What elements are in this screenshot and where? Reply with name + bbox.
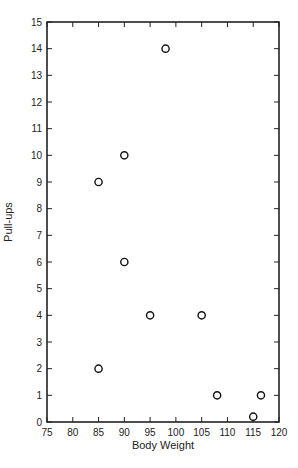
x-tick-label: 120 [271, 427, 288, 438]
y-tick-label: 0 [36, 417, 42, 428]
y-tick-label: 14 [31, 43, 43, 54]
y-tick-label: 2 [36, 363, 42, 374]
data-point [250, 413, 257, 420]
y-axis-label: Pull-ups [2, 202, 14, 242]
data-point [95, 178, 102, 185]
x-axis-label: Body Weight [132, 439, 194, 451]
y-tick-label: 6 [36, 257, 42, 268]
data-point [162, 45, 169, 52]
y-tick-label: 15 [31, 17, 43, 28]
scatter-chart: 7580859095100105110115120 01234567891011… [0, 0, 298, 468]
x-tick-label: 115 [245, 427, 261, 438]
x-tick-label: 100 [168, 427, 185, 438]
y-tick-label: 3 [36, 337, 42, 348]
x-tick-label: 95 [145, 427, 157, 438]
data-point [257, 392, 264, 399]
y-tick-label: 9 [36, 177, 42, 188]
x-axis-ticks: 7580859095100105110115120 [41, 22, 287, 438]
data-point [214, 392, 221, 399]
y-tick-label: 8 [36, 203, 42, 214]
y-tick-label: 10 [31, 150, 43, 161]
y-tick-label: 1 [36, 390, 42, 401]
x-tick-label: 75 [41, 427, 53, 438]
y-tick-label: 4 [36, 310, 42, 321]
data-point [121, 152, 128, 159]
data-point [121, 258, 128, 265]
x-tick-label: 80 [67, 427, 79, 438]
data-points [95, 45, 265, 420]
y-tick-label: 5 [36, 283, 42, 294]
data-point [198, 312, 205, 319]
y-axis-ticks: 0123456789101112131415 [31, 17, 279, 428]
y-tick-label: 12 [31, 97, 43, 108]
data-point [95, 365, 102, 372]
x-tick-label: 110 [219, 427, 235, 438]
plot-frame [47, 22, 279, 422]
x-tick-label: 85 [93, 427, 105, 438]
x-tick-label: 90 [119, 427, 131, 438]
data-point [147, 312, 154, 319]
y-tick-label: 13 [31, 70, 43, 81]
y-tick-label: 7 [36, 230, 42, 241]
x-tick-label: 105 [193, 427, 210, 438]
y-tick-label: 11 [32, 123, 43, 134]
